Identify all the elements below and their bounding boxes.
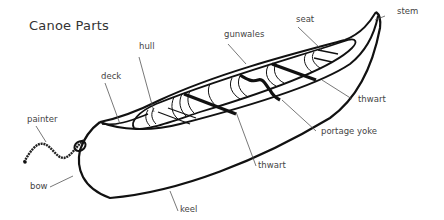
label-thwart-right: thwart	[358, 94, 386, 104]
label-painter: painter	[27, 114, 57, 124]
thwart-stern	[272, 64, 316, 80]
label-deck: deck	[101, 71, 121, 81]
bow-seat-front	[168, 108, 196, 118]
canoe-parts-diagram: Canoe Parts hull deck gunwales seat stem…	[0, 0, 444, 220]
label-bow: bow	[30, 181, 48, 191]
label-gunwales: gunwales	[224, 29, 264, 39]
canoe-illustration	[0, 0, 444, 220]
label-hull: hull	[139, 41, 155, 51]
diagram-title: Canoe Parts	[29, 18, 109, 33]
label-seat: seat	[296, 14, 314, 24]
stern-seat	[318, 50, 338, 54]
label-portage-yoke: portage yoke	[321, 126, 377, 136]
label-keel: keel	[180, 204, 197, 214]
stern-seat-2	[314, 58, 332, 62]
hull-outline	[79, 12, 380, 198]
label-thwart-bottom: thwart	[258, 160, 286, 170]
label-stem: stem	[397, 6, 418, 16]
